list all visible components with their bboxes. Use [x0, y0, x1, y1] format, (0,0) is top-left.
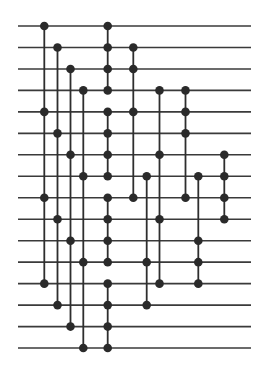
comparator-node — [220, 193, 229, 202]
comparator-connectors — [44, 26, 224, 348]
comparator-node — [103, 193, 112, 202]
comparator-node — [40, 22, 49, 31]
comparator-node — [142, 172, 151, 181]
comparator-node — [103, 86, 112, 95]
comparator-nodes — [40, 22, 229, 353]
comparator-node — [66, 236, 75, 245]
comparator-node — [142, 301, 151, 310]
comparator-node — [53, 129, 62, 138]
comparator-node — [103, 322, 112, 331]
comparator-network-diagram — [0, 0, 268, 372]
comparator-node — [129, 43, 138, 52]
comparator-node — [181, 129, 190, 138]
comparator-node — [129, 193, 138, 202]
comparator-node — [194, 172, 203, 181]
comparator-node — [194, 236, 203, 245]
comparator-node — [53, 301, 62, 310]
comparator-node — [53, 43, 62, 52]
comparator-node — [181, 108, 190, 117]
comparator-node — [103, 22, 112, 31]
comparator-node — [103, 172, 112, 181]
comparator-node — [129, 108, 138, 117]
comparator-node — [79, 344, 88, 353]
comparator-node — [103, 344, 112, 353]
wires — [18, 26, 251, 348]
comparator-node — [66, 322, 75, 331]
comparator-node — [53, 215, 62, 224]
comparator-node — [142, 258, 151, 267]
comparator-node — [220, 151, 229, 160]
comparator-node — [66, 151, 75, 160]
comparator-node — [155, 279, 164, 288]
comparator-node — [103, 215, 112, 224]
comparator-node — [103, 43, 112, 52]
comparator-node — [129, 65, 138, 74]
comparator-node — [103, 301, 112, 310]
comparator-node — [79, 172, 88, 181]
comparator-node — [155, 86, 164, 95]
comparator-node — [181, 86, 190, 95]
comparator-node — [103, 65, 112, 74]
comparator-node — [103, 258, 112, 267]
comparator-node — [220, 215, 229, 224]
comparator-node — [181, 193, 190, 202]
comparator-node — [103, 129, 112, 138]
comparator-node — [103, 108, 112, 117]
comparator-node — [155, 151, 164, 160]
comparator-node — [155, 215, 164, 224]
comparator-node — [66, 65, 75, 74]
comparator-node — [40, 108, 49, 117]
comparator-node — [103, 236, 112, 245]
comparator-node — [79, 258, 88, 267]
comparator-node — [194, 258, 203, 267]
comparator-node — [194, 279, 203, 288]
comparator-node — [79, 86, 88, 95]
comparator-node — [103, 151, 112, 160]
comparator-node — [40, 279, 49, 288]
comparator-node — [103, 279, 112, 288]
comparator-node — [40, 193, 49, 202]
comparator-node — [220, 172, 229, 181]
